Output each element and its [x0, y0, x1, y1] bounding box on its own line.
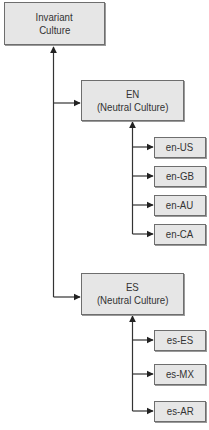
es-es-node: es-ES	[154, 330, 206, 351]
es-neutral-culture-node: ES (Neutral Culture)	[81, 273, 184, 315]
es-subtree-lines	[133, 316, 154, 411]
es-es-label: es-ES	[167, 334, 193, 347]
en-node-label-line1: EN	[126, 88, 139, 101]
en-us-label: en-US	[166, 141, 193, 154]
es-node-label-line2: (Neutral Culture)	[97, 294, 169, 307]
en-subtree-lines	[133, 122, 154, 234]
en-ca-node: en-CA	[154, 224, 206, 245]
en-neutral-culture-node: EN (Neutral Culture)	[81, 80, 184, 121]
invariant-culture-label-line2: Culture	[39, 24, 70, 37]
en-gb-node: en-GB	[154, 166, 206, 187]
invariant-culture-label-line1: Invariant	[36, 11, 73, 24]
en-au-label: en-AU	[166, 199, 193, 212]
es-ar-label: es-AR	[167, 405, 194, 418]
en-au-node: en-AU	[154, 195, 206, 216]
es-mx-node: es-MX	[154, 364, 206, 385]
en-ca-label: en-CA	[166, 228, 193, 241]
es-ar-node: es-AR	[154, 401, 206, 422]
en-gb-label: en-GB	[166, 170, 194, 183]
root-trunk	[54, 47, 81, 297]
en-us-node: en-US	[154, 137, 206, 158]
es-node-label-line1: ES	[126, 281, 139, 294]
en-node-label-line2: (Neutral Culture)	[97, 101, 169, 114]
invariant-culture-node: Invariant Culture	[4, 2, 105, 45]
es-mx-label: es-MX	[166, 368, 194, 381]
